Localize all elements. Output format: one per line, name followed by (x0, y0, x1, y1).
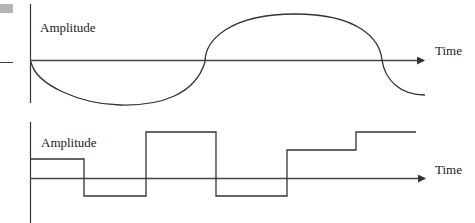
bottom-time-label: Time (435, 163, 462, 176)
signal-diagram: Amplitude Time Amplitude Time (0, 0, 475, 223)
top-time-label: Time (435, 44, 462, 57)
top-amplitude-label: Amplitude (40, 21, 96, 34)
bottom-amplitude-label: Amplitude (41, 136, 97, 149)
